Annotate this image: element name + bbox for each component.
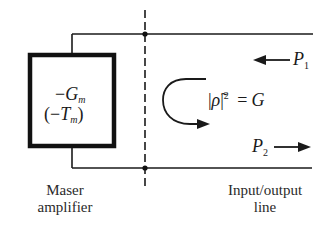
p1-subscript: 1 xyxy=(304,60,309,71)
g-symbol: G xyxy=(65,84,78,104)
negative-conductance: −Gm xyxy=(55,84,85,105)
junction-dot-top xyxy=(142,31,147,36)
incident-arrowhead xyxy=(253,55,266,65)
caption-line-2: line xyxy=(205,199,325,216)
minus-sign: − xyxy=(55,84,65,104)
minus-sign: − xyxy=(50,104,60,124)
close-paren: ) xyxy=(77,104,83,124)
incident-power-label: P1 xyxy=(293,49,309,70)
reflection-equation: |ρ̃|2 =G xyxy=(208,90,265,111)
reflection-arrowhead xyxy=(197,119,210,129)
input-output-line-caption: Input/output line xyxy=(205,182,325,216)
p2-symbol: P xyxy=(252,136,263,156)
exponent: 2 xyxy=(224,90,229,101)
maser-amplifier-caption: Maser amplifier xyxy=(20,182,110,216)
caption-line-1: Input/output xyxy=(205,182,325,199)
junction-dot-bottom xyxy=(142,165,147,170)
p2-subscript: 2 xyxy=(263,147,268,158)
t-subscript: m xyxy=(70,114,77,125)
p1-symbol: P xyxy=(293,49,304,69)
caption-line-2: amplifier xyxy=(20,199,110,216)
reflected-arrowhead xyxy=(298,142,311,152)
equals-sign: = xyxy=(237,90,247,110)
negative-temperature: (−Tm) xyxy=(44,104,83,125)
reflection-arrow xyxy=(163,79,206,124)
reflected-power-label: P2 xyxy=(252,136,268,157)
t-symbol: T xyxy=(60,104,70,124)
caption-line-1: Maser xyxy=(20,182,110,199)
gain-symbol: G xyxy=(252,90,265,110)
rho-symbol: ρ̃ xyxy=(212,90,221,110)
